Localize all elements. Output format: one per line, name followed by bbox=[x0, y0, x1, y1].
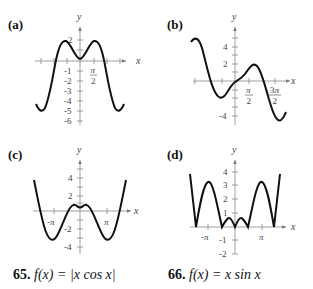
y-axis-label-b: y bbox=[231, 11, 237, 22]
panel-label-c: (c) bbox=[8, 147, 22, 162]
panel-b: (b) x y 4 2 -4 π 2 3π 2 bbox=[167, 11, 296, 125]
x-axis-label-a: x bbox=[135, 55, 141, 66]
curve-b bbox=[191, 39, 286, 121]
panel-label-a: (a) bbox=[8, 17, 23, 32]
svg-text:3π: 3π bbox=[270, 85, 280, 95]
x-tick-neg-pi-c: -π bbox=[47, 217, 55, 227]
exercise-65: 65. f(x) = |x cos x| bbox=[13, 267, 116, 283]
panel-c: (c) x y 4 2 -2 -4 -π π bbox=[8, 144, 139, 254]
x-axis-label-d: x bbox=[290, 221, 296, 232]
svg-text:π: π bbox=[91, 65, 96, 75]
x-tick-pi-d: π bbox=[259, 232, 264, 242]
svg-text:-2: -2 bbox=[64, 76, 72, 86]
exercise-number: 65. bbox=[13, 267, 31, 282]
figure-canvas: (a) x y 2 -1 -2 -3 -4 -5 -6 π 2 (b) bbox=[0, 0, 313, 289]
svg-text:2: 2 bbox=[247, 96, 252, 106]
svg-text:π: π bbox=[246, 85, 251, 95]
svg-text:-4: -4 bbox=[219, 111, 227, 121]
panel-label-d: (d) bbox=[167, 147, 183, 162]
svg-text:2: 2 bbox=[68, 191, 73, 201]
svg-text:4: 4 bbox=[223, 167, 228, 177]
svg-text:-2: -2 bbox=[219, 249, 227, 259]
x-axis-label-c: x bbox=[133, 205, 139, 216]
x-tick-pi-c: π bbox=[104, 217, 109, 227]
svg-text:2: 2 bbox=[91, 76, 96, 86]
svg-text:-1: -1 bbox=[219, 235, 227, 245]
y-axis-label-d: y bbox=[231, 144, 237, 155]
y-axis-label-a: y bbox=[76, 11, 82, 22]
svg-text:-2: -2 bbox=[64, 224, 72, 234]
panel-d: (d) x y 4 3 2 1 -1 -2 -π π bbox=[167, 144, 296, 259]
x-tick-pi-half-a: π 2 bbox=[90, 65, 97, 86]
y-axis-label-c: y bbox=[76, 144, 82, 155]
svg-text:2: 2 bbox=[273, 96, 278, 106]
exercise-number: 66. bbox=[168, 267, 186, 282]
panel-label-b: (b) bbox=[167, 17, 183, 32]
svg-text:4: 4 bbox=[223, 42, 228, 52]
svg-text:-5: -5 bbox=[64, 106, 72, 116]
svg-text:2: 2 bbox=[223, 59, 228, 69]
svg-text:1: 1 bbox=[223, 208, 228, 218]
svg-text:-6: -6 bbox=[64, 116, 72, 126]
svg-text:-4: -4 bbox=[64, 242, 72, 252]
x-tick-neg-pi-d: -π bbox=[201, 232, 209, 242]
exercise-function: f(x) = |x cos x| bbox=[34, 267, 116, 282]
svg-text:2: 2 bbox=[223, 194, 228, 204]
svg-text:-4: -4 bbox=[64, 96, 72, 106]
svg-text:4: 4 bbox=[68, 173, 73, 183]
svg-text:-1: -1 bbox=[64, 66, 72, 76]
svg-text:3: 3 bbox=[223, 180, 228, 190]
exercise-function: f(x) = x sin x bbox=[189, 267, 261, 282]
svg-text:-3: -3 bbox=[64, 86, 72, 96]
x-tick-pi-half-b: π 2 bbox=[245, 85, 253, 106]
exercise-66: 66. f(x) = x sin x bbox=[168, 267, 261, 283]
x-axis-label-b: x bbox=[290, 75, 296, 86]
panel-a: (a) x y 2 -1 -2 -3 -4 -5 -6 π 2 bbox=[8, 11, 141, 126]
